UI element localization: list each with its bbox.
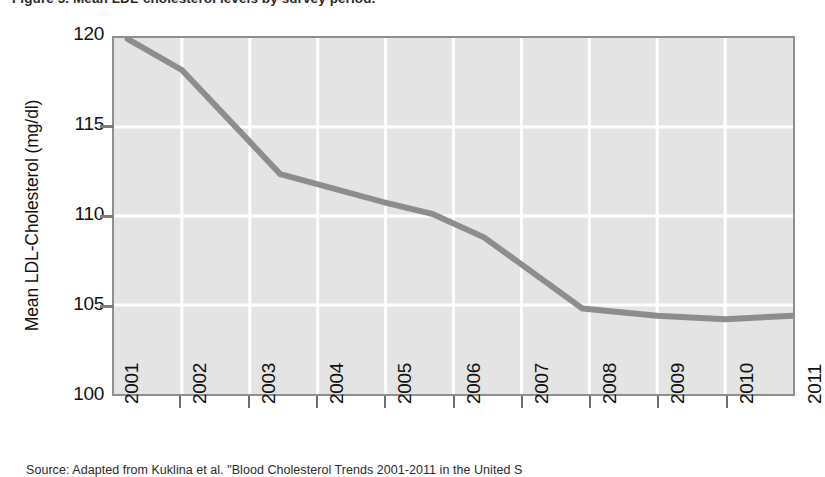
x-tick-label: 2001	[121, 334, 143, 404]
x-axis-tick-labels: 2001200220032004200520062007200820092010…	[0, 0, 825, 477]
x-tick-label: 2007	[531, 334, 553, 404]
x-tick-mark	[589, 396, 591, 408]
y-tick-mark	[100, 305, 114, 308]
x-tick-mark	[657, 396, 659, 408]
y-tick-mark	[100, 215, 114, 218]
x-tick-mark	[384, 396, 386, 408]
x-tick-label: 2006	[463, 334, 485, 404]
x-tick-mark	[521, 396, 523, 408]
y-tick-mark	[100, 125, 114, 128]
x-tick-label: 2002	[189, 334, 211, 404]
x-tick-label: 2009	[667, 334, 689, 404]
x-tick-mark	[453, 396, 455, 408]
x-tick-mark	[726, 396, 728, 408]
x-tick-label: 2010	[736, 334, 758, 404]
x-tick-label: 2011	[804, 334, 825, 404]
x-tick-mark	[316, 396, 318, 408]
source-note: Source: Adapted from Kuklina et al. "Blo…	[26, 463, 816, 477]
x-tick-label: 2004	[326, 334, 348, 404]
x-tick-mark	[179, 396, 181, 408]
chart-figure: Figure 3. Mean LDL-cholesterol levels by…	[0, 0, 825, 477]
x-tick-label: 2005	[394, 334, 416, 404]
x-tick-label: 2003	[258, 334, 280, 404]
x-tick-mark	[248, 396, 250, 408]
x-tick-label: 2008	[599, 334, 621, 404]
